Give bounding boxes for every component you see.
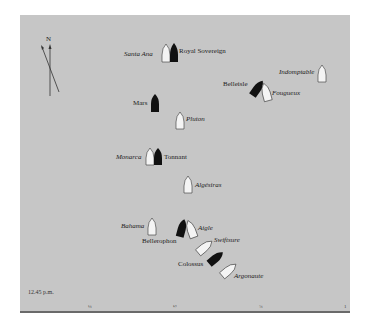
ship-swiftsure-icon [196, 238, 215, 256]
scale-tick: ¾ [259, 304, 263, 309]
scale-tick: ½ [173, 304, 177, 309]
ship-label: Pluton [186, 116, 205, 123]
ship-label: Royal Sovereign [179, 48, 226, 55]
ship-label: Algésiras [195, 182, 221, 189]
ship-algesiras-icon [184, 176, 192, 193]
ship-label: Colossus [178, 261, 203, 268]
ship-mars-icon [151, 94, 159, 112]
compass-north-label: N [46, 36, 51, 43]
ship-royal-sovereign-icon [170, 43, 178, 62]
scale-tick: ¼ [88, 304, 92, 309]
ship-tonnant-icon [154, 148, 162, 165]
compass-icon [41, 44, 59, 96]
ship-label: Fougueux [272, 90, 300, 97]
ship-label: Bellerophon [142, 238, 177, 245]
ship-santa-ana-icon [162, 44, 170, 62]
ship-pluton-icon [176, 112, 184, 129]
ship-label: Aigle [198, 225, 213, 232]
ship-label: Monarca [116, 154, 141, 161]
ship-label: Santa Ana [124, 51, 153, 58]
scale-bar [20, 311, 350, 313]
ship-bellerophon-icon [176, 218, 188, 237]
ship-indomptable-icon [318, 65, 326, 82]
ship-monarca-icon [146, 148, 154, 165]
time-label: 12.45 p.m. [28, 289, 54, 295]
ship-colossus-icon [207, 249, 226, 267]
ship-bahama-icon [148, 218, 156, 235]
ship-label: Swiftsure [214, 237, 240, 244]
ship-aigle-icon [184, 219, 198, 239]
ship-label: Bahama [121, 223, 144, 230]
ship-label: Belleisle [223, 81, 248, 88]
ship-label: Mars [133, 100, 147, 107]
ship-label: Indomptable [279, 69, 314, 76]
ship-label: Tonnant [164, 154, 187, 161]
ship-label: Argonaute [234, 273, 263, 280]
scale-tick: 1 [344, 304, 347, 309]
